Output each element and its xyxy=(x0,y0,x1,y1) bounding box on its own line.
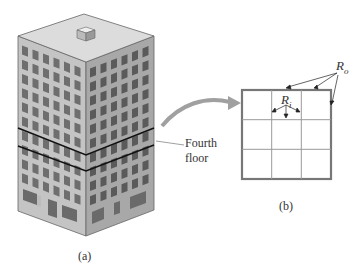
diagram-canvas xyxy=(0,0,360,272)
curved-arrow-icon xyxy=(162,96,241,126)
roof-box xyxy=(77,27,95,41)
outer-resistance-label: Ro xyxy=(336,58,348,76)
outer-label-subscript: o xyxy=(344,66,349,76)
inner-resistance-label: Ri xyxy=(281,92,291,110)
caption-a: (a) xyxy=(78,249,91,264)
inner-label-symbol: R xyxy=(281,92,289,107)
fourth-floor-leader-line xyxy=(156,141,184,145)
inner-label-subscript: i xyxy=(289,100,292,110)
entrance-door xyxy=(48,199,57,218)
outer-label-symbol: R xyxy=(336,58,344,73)
fourth-floor-label-line1: Fourth xyxy=(185,136,217,151)
caption-b: (b) xyxy=(279,199,293,214)
fourth-floor-label-line2: floor xyxy=(185,151,217,166)
building-illustration xyxy=(18,14,154,236)
fourth-floor-label: Fourth floor xyxy=(185,136,217,166)
